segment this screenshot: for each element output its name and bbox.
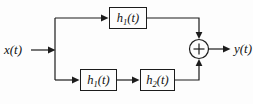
block-h1-bottom: h1(t) [80,69,117,91]
summer-bottom-arrowhead-icon [196,59,203,66]
input-label: x(t) [4,43,22,57]
block-h1-bottom-label: h1(t) [87,74,109,87]
block-h2-bottom-label: h2(t) [146,74,168,87]
block-diagram-canvas: x(t) y(t) h1(t) h1(t) h2(t) [0,0,253,104]
output-arrowhead-icon [223,46,231,53]
block-h1-top: h1(t) [109,7,147,29]
bottom-wire-arrowhead-icon [72,77,80,84]
input-arrowhead-icon [48,47,56,54]
bottom-wire-out [175,65,199,80]
inter-block-arrowhead-icon [132,77,140,84]
summer-top-arrowhead-icon [196,32,203,39]
output-label: y(t) [234,42,252,56]
block-h1-top-label: h1(t) [117,12,139,25]
top-wire-arrowhead-icon [101,15,109,22]
plus-icon [194,44,205,55]
block-h2-bottom: h2(t) [140,69,175,91]
top-wire-out [147,18,199,33]
